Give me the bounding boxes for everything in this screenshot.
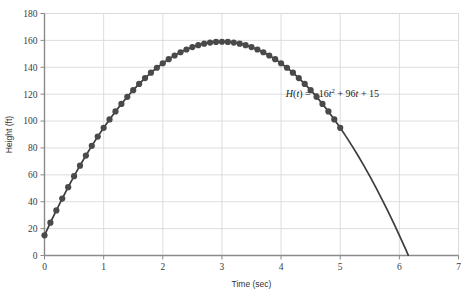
data-point: [272, 56, 278, 62]
data-point: [77, 163, 83, 169]
data-point: [225, 39, 231, 45]
x-tick-label: 6: [397, 262, 402, 272]
x-tick-label: 4: [279, 262, 284, 272]
data-point: [65, 184, 71, 190]
x-tick-label: 0: [42, 262, 47, 272]
data-point: [136, 81, 142, 87]
data-point: [213, 39, 219, 45]
y-tick-label: 140: [23, 63, 38, 73]
data-point: [254, 46, 260, 52]
data-point: [319, 101, 325, 107]
data-point: [242, 42, 248, 48]
data-point: [260, 49, 266, 55]
data-point: [290, 70, 296, 76]
x-tick-label: 1: [101, 262, 106, 272]
data-point: [296, 75, 302, 81]
data-point: [148, 70, 154, 76]
data-point: [219, 39, 225, 45]
data-point: [207, 39, 213, 45]
data-point: [189, 44, 195, 50]
y-tick-label: 40: [28, 197, 38, 207]
x-tick-label: 7: [456, 262, 461, 272]
data-point: [325, 108, 331, 114]
x-tick-label: 5: [338, 262, 343, 272]
data-point: [201, 41, 207, 47]
data-point: [177, 49, 183, 55]
y-tick-label: 80: [28, 143, 38, 153]
data-point: [59, 195, 65, 201]
y-tick-label: 160: [23, 36, 38, 46]
data-point: [95, 134, 101, 140]
data-point: [106, 116, 112, 122]
y-tick-label: 120: [23, 90, 38, 100]
y-tick-label: 0: [33, 251, 38, 261]
data-point: [166, 56, 172, 62]
data-point: [154, 65, 160, 71]
data-point: [266, 52, 272, 58]
data-point: [118, 101, 124, 107]
data-point: [337, 125, 343, 131]
data-point: [302, 81, 308, 87]
data-point: [124, 94, 130, 100]
data-point: [284, 65, 290, 71]
data-point: [248, 44, 254, 50]
data-point: [278, 60, 284, 66]
data-point: [231, 39, 237, 45]
data-point: [47, 220, 53, 226]
height-vs-time-chart: 020406080100120140160180 01234567 H(t) =…: [0, 0, 474, 296]
data-point: [112, 108, 118, 114]
data-point: [41, 232, 47, 238]
data-point: [130, 87, 136, 93]
x-tick-label: 3: [220, 262, 225, 272]
data-point: [172, 52, 178, 58]
data-point: [83, 152, 89, 158]
data-point: [237, 41, 243, 47]
data-point: [101, 125, 107, 131]
data-point: [331, 116, 337, 122]
y-tick-label: 100: [23, 116, 38, 126]
data-point: [195, 42, 201, 48]
data-point: [183, 46, 189, 52]
y-tick-label: 180: [23, 9, 38, 19]
y-tick-label: 20: [28, 224, 38, 234]
x-axis-label: Time (sec): [232, 279, 272, 289]
data-point: [71, 173, 77, 179]
y-axis-label: Height (ft): [4, 116, 14, 153]
data-point: [142, 75, 148, 81]
x-tick-label: 2: [160, 262, 165, 272]
data-point: [53, 207, 59, 213]
data-point: [160, 60, 166, 66]
y-tick-label: 60: [28, 170, 38, 180]
data-point: [89, 143, 95, 149]
